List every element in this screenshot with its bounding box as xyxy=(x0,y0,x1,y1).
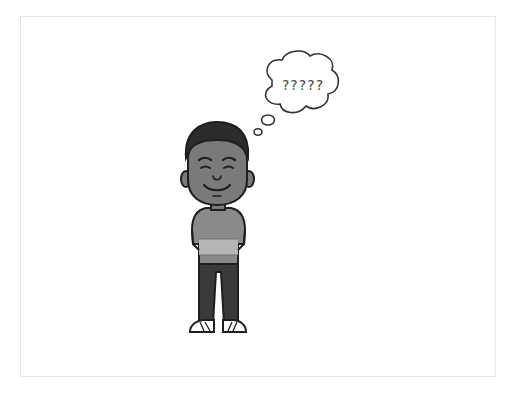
shirt xyxy=(192,208,245,264)
shoes xyxy=(190,320,246,332)
boy-illustration xyxy=(0,0,511,402)
head xyxy=(186,122,248,205)
thought-bubble-icon xyxy=(254,51,338,135)
pants xyxy=(199,262,238,324)
thought-bubble-text: ????? xyxy=(270,77,336,93)
